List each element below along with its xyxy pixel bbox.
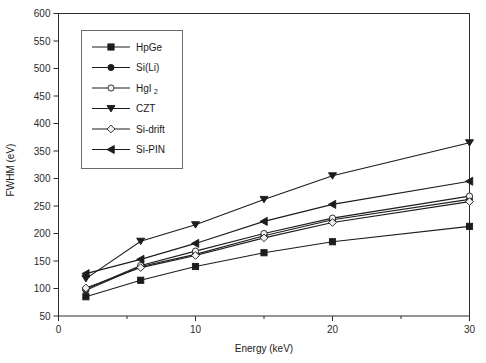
y-tick-label: 300 <box>34 173 51 184</box>
y-tick-label: 150 <box>34 256 51 267</box>
legend-label: Si-PIN <box>136 144 165 155</box>
legend-label: HgI <box>136 83 152 94</box>
data-point-marker <box>466 223 472 229</box>
y-axis-title: FWHM (eV) <box>5 144 16 197</box>
y-tick-label: 450 <box>34 91 51 102</box>
chart-background <box>0 0 486 363</box>
data-point-marker <box>261 250 267 256</box>
y-tick-label: 50 <box>39 311 51 322</box>
y-tick-label: 550 <box>34 36 51 47</box>
data-point-marker <box>192 263 198 269</box>
legend-label: Si-drift <box>136 124 165 135</box>
y-tick-label: 200 <box>34 228 51 239</box>
data-point-marker <box>108 44 114 50</box>
x-tick-label: 30 <box>464 324 476 335</box>
legend-label: CZT <box>136 103 155 114</box>
x-tick-label: 0 <box>56 324 62 335</box>
y-tick-label: 250 <box>34 201 51 212</box>
data-point-marker <box>108 64 114 70</box>
legend-label-subscript: 2 <box>154 87 158 96</box>
legend-box <box>82 31 183 169</box>
legend-label: HpGe <box>136 42 163 53</box>
fwhm-vs-energy-line-chart: 50100150200250300350400450500550600 0102… <box>0 0 486 363</box>
data-point-marker <box>83 294 89 300</box>
y-tick-label: 350 <box>34 146 51 157</box>
x-tick-label: 20 <box>327 324 339 335</box>
chart-legend: HpGeSi(Li)HgI2CZTSi-driftSi-PIN <box>82 31 183 169</box>
data-point-marker <box>108 85 114 91</box>
chart-figure: 50100150200250300350400450500550600 0102… <box>0 0 486 363</box>
y-tick-label: 400 <box>34 118 51 129</box>
data-point-marker <box>329 239 335 245</box>
y-tick-label: 100 <box>34 283 51 294</box>
data-point-marker <box>138 277 144 283</box>
legend-label: Si(Li) <box>136 62 159 73</box>
x-axis-title: Energy (keV) <box>235 343 293 354</box>
y-tick-label: 500 <box>34 63 51 74</box>
y-tick-label: 600 <box>34 8 51 19</box>
x-tick-label: 10 <box>190 324 202 335</box>
